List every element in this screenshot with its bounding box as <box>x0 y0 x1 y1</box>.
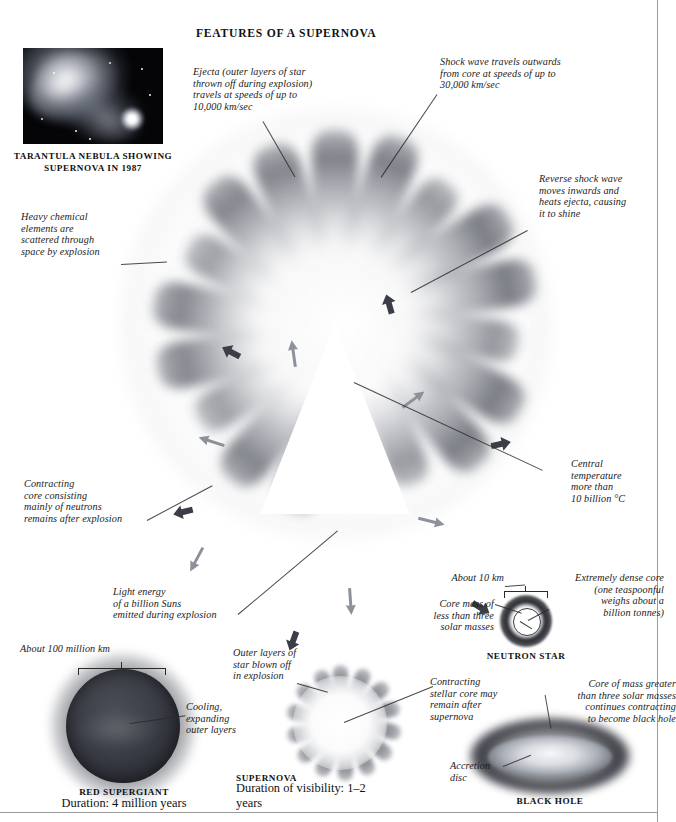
neutron-star-illustration <box>500 595 552 647</box>
red-supergiant-duration: Duration: 4 million years <box>36 796 212 811</box>
annotation-shock-wave: Shock wave travels outwards from core at… <box>440 56 620 91</box>
annotation-contracting-core: Contracting core consisting mainly of ne… <box>24 478 154 524</box>
page-border-bottom <box>0 812 657 813</box>
red-supergiant-illustration <box>62 665 184 787</box>
label-100-million-km: About 100 million km <box>20 643 180 655</box>
neutron-star-size-bracket <box>504 586 548 598</box>
supernova-stage-duration: Duration of visibility: 1–2 years <box>236 781 386 810</box>
label-core-mass-neutron: Core mass of less than three solar masse… <box>414 598 494 633</box>
annotation-ejecta: Ejecta (outer layers of star thrown off … <box>193 66 363 112</box>
annotation-heavy-elements: Heavy chemical elements are scattered th… <box>21 211 131 257</box>
label-cooling-outer-layers: Cooling, expanding outer layers <box>186 701 272 736</box>
annotation-reverse-shock: Reverse shock wave moves inwards and hea… <box>539 173 664 219</box>
label-contracting-stellar-core: Contracting stellar core may remain afte… <box>430 676 528 722</box>
label-about-10-km: About 10 km <box>418 572 504 584</box>
red-supergiant-size-bracket <box>78 662 166 674</box>
label-dense-core: Extremely dense core (one teaspoonful we… <box>546 572 664 618</box>
supernova-sphere-illustration <box>128 118 543 630</box>
black-hole-caption: BLACK HOLE <box>492 795 608 807</box>
page-title: FEATURES OF A SUPERNOVA <box>196 27 376 40</box>
reverse-shock-arrow-inward <box>344 588 357 616</box>
annotation-light-energy: Light energy of a billion Suns emitted d… <box>113 586 253 621</box>
label-black-hole-core-mass: Core of mass greater than three solar ma… <box>530 678 676 724</box>
annotation-central-temperature: Central temperature more than 10 billion… <box>571 458 663 504</box>
neutron-star-caption: NEUTRON STAR <box>474 650 578 662</box>
label-outer-layers-blown-off: Outer layers of star blown off in explos… <box>233 647 337 682</box>
